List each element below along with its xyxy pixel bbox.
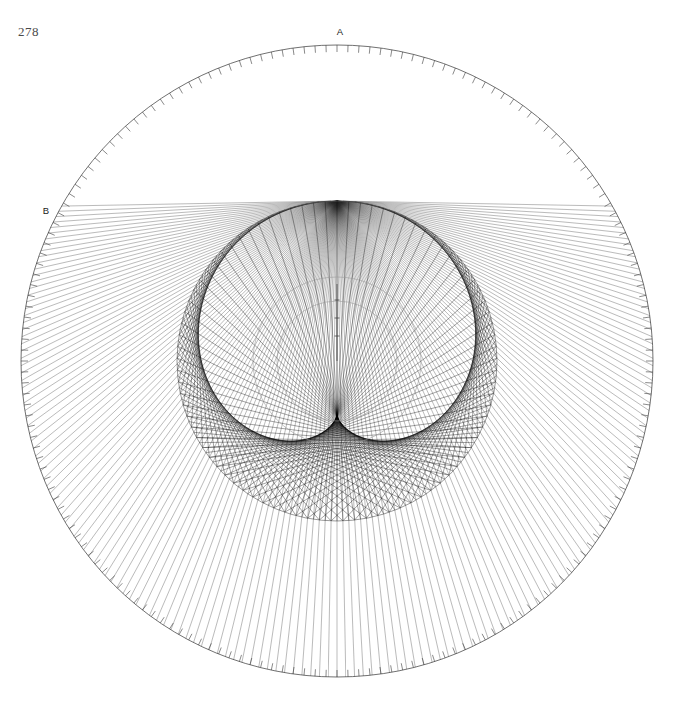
tick-mark (639, 295, 646, 296)
tick-mark (229, 64, 231, 71)
tick-mark (482, 82, 485, 88)
reflected-ray (194, 290, 210, 458)
reflected-ray (177, 352, 319, 520)
tick-mark (412, 54, 414, 61)
tick-mark (36, 456, 43, 458)
tick-mark (412, 661, 414, 668)
tick-mark (239, 655, 241, 662)
tick-mark (134, 119, 138, 124)
incident-ray (186, 201, 337, 639)
tick-mark (510, 99, 514, 105)
incident-ray (337, 201, 652, 381)
tick-mark (179, 87, 183, 93)
tick-mark (282, 50, 283, 57)
tick-mark (639, 425, 646, 426)
tick-mark (643, 404, 650, 405)
tick-mark (401, 663, 402, 670)
tick-mark (28, 425, 35, 426)
tick-mark (432, 655, 434, 662)
tick-mark (179, 629, 183, 635)
point-label-B: B (43, 205, 49, 216)
incident-ray (337, 201, 563, 582)
tick-mark (544, 591, 549, 596)
tick-mark (151, 611, 155, 617)
tick-mark (170, 93, 174, 99)
tick-mark (432, 60, 434, 67)
tick-mark (75, 534, 81, 538)
tick-mark (24, 404, 31, 405)
tick-mark (293, 48, 294, 55)
tick-mark (261, 661, 263, 668)
tick-mark (627, 253, 634, 255)
tick-mark (631, 263, 638, 265)
reflected-ray (179, 335, 285, 513)
tick-mark (30, 285, 37, 287)
incident-ray (337, 201, 612, 206)
tick-mark (492, 629, 496, 635)
incident-ray (111, 201, 337, 582)
tick-mark (519, 105, 523, 111)
reflected-ray (400, 329, 493, 508)
incident-ray (25, 201, 337, 411)
tick-mark (26, 415, 33, 416)
tick-mark (271, 52, 272, 59)
incident-ray (337, 201, 649, 411)
incident-ray (28, 201, 337, 426)
tick-mark (472, 639, 475, 645)
incident-ray (337, 201, 531, 610)
tick-mark (126, 591, 131, 596)
incident-ray (337, 201, 653, 351)
incident-ray (25, 201, 337, 309)
incident-ray (22, 201, 337, 381)
incident-ray (337, 201, 653, 344)
tick-mark (88, 166, 94, 170)
tick-mark (28, 295, 35, 296)
tick-mark (151, 105, 155, 111)
tick-mark (81, 175, 87, 179)
incident-ray (23, 201, 337, 323)
tick-mark (380, 48, 381, 55)
tick-mark (472, 77, 475, 83)
tick-mark (282, 665, 283, 672)
tick-mark (453, 68, 456, 74)
tick-mark (40, 253, 47, 255)
tick-mark (501, 93, 505, 99)
tick-mark (587, 175, 593, 179)
tick-mark (160, 99, 164, 105)
tick-mark (593, 184, 599, 188)
tick-mark (160, 617, 164, 623)
tick-mark (443, 651, 445, 658)
reflected-ray (178, 346, 308, 518)
incident-ray (337, 201, 652, 388)
tick-mark (567, 150, 572, 155)
tick-mark (58, 213, 64, 216)
tick-mark (304, 47, 305, 54)
incident-ray (337, 201, 496, 634)
incident-ray (337, 201, 646, 426)
tick-mark (391, 665, 392, 672)
incident-ray (129, 201, 337, 599)
tick-mark (453, 647, 456, 653)
incident-ray (337, 201, 649, 309)
reflected-ray (355, 352, 497, 520)
reflected-ray (178, 243, 230, 346)
tick-mark (219, 68, 222, 74)
tick-mark (53, 222, 59, 225)
tick-mark (610, 213, 616, 216)
tick-mark (102, 568, 107, 573)
tick-mark (24, 317, 31, 318)
incident-ray (337, 201, 651, 323)
reflected-ray (366, 346, 496, 518)
incident-ray (62, 201, 337, 206)
tick-mark (574, 158, 579, 162)
tick-mark (593, 534, 599, 538)
tick-mark (510, 617, 514, 623)
reflected-ray (445, 243, 497, 346)
caustic-figure: AB (0, 0, 673, 701)
tick-mark (126, 126, 131, 131)
tick-mark (422, 57, 424, 64)
tick-mark (463, 72, 466, 78)
point-label-A: A (337, 26, 344, 37)
tick-mark (142, 112, 146, 118)
tick-mark (261, 54, 263, 61)
